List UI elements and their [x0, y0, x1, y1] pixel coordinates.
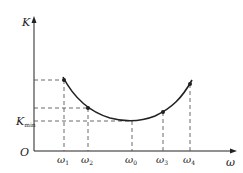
x-axis-label: ω: [226, 156, 235, 169]
curve-points: [62, 78, 192, 114]
omega4-label: ω4: [183, 154, 195, 166]
omega3-label: ω3: [156, 154, 168, 166]
omega1-label: ω1: [57, 154, 69, 166]
guide-lines: [34, 80, 190, 151]
omega2-label: ω2: [81, 154, 93, 166]
k-curve: [63, 77, 192, 121]
omega0-label: ω0: [125, 154, 137, 166]
y-axis-label: K: [21, 16, 31, 29]
k-vs-omega-diagram: K O ω Kmin ω1 ω2 ω0 ω3 ω4: [0, 0, 243, 173]
origin-label: O: [20, 146, 29, 159]
kmin-label: Kmin: [15, 115, 36, 128]
y-axis-arrow-icon: [32, 16, 37, 23]
x-axis-arrow-icon: [230, 149, 237, 154]
